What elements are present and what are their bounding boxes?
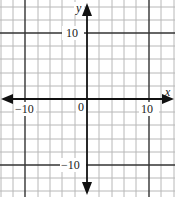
axes — [1, 3, 174, 195]
x-axis-label: x — [164, 85, 171, 99]
y-axis-down-arrow-icon — [82, 182, 92, 195]
coordinate-plane: y x 10 −10 −10 10 0 — [0, 0, 175, 197]
y-neg-10-label: −10 — [61, 158, 80, 172]
x-neg-10-label: −10 — [15, 102, 34, 116]
x-pos-10-label: 10 — [141, 102, 153, 116]
origin-label: 0 — [78, 100, 84, 114]
y-pos-10-label: 10 — [66, 26, 78, 40]
x-axis-left-arrow-icon — [1, 94, 13, 104]
y-axis-label: y — [75, 1, 82, 15]
